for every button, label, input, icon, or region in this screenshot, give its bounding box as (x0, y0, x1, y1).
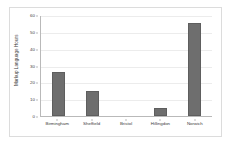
bar-chart-figure: Markup Language Hours 0102030405060 Birm… (0, 0, 231, 145)
bar-slot (178, 16, 212, 116)
x-axis-tick-label: Sheffield (74, 122, 108, 126)
y-axis-tick-mark (36, 83, 38, 84)
y-axis-tick-mark (36, 66, 38, 67)
x-axis-tick-label: Bristol (109, 122, 143, 126)
x-axis-tick-mark (126, 119, 127, 121)
bar-slot (75, 16, 109, 116)
x-axis-tick-mark (57, 119, 58, 121)
bars-layer (41, 16, 212, 116)
bar-slot (144, 16, 178, 116)
x-axis-tick-cell: Norwich (178, 119, 212, 126)
y-axis-tick-mark (36, 49, 38, 50)
bar[interactable] (86, 91, 99, 116)
x-axis-tick-cell: Hillingdon (143, 119, 177, 126)
y-axis-tick-mark (36, 32, 38, 33)
x-axis-tick-mark (194, 119, 195, 121)
x-axis-tick-labels: BirminghamSheffieldBristolHillingdonNorw… (40, 119, 212, 126)
y-axis-tick-label: 40 (30, 47, 35, 51)
x-axis-tick-cell: Birmingham (40, 119, 74, 126)
plot-area (40, 16, 212, 117)
x-axis-tick-label: Norwich (178, 122, 212, 126)
y-axis-tick-label: 10 (30, 98, 35, 102)
y-axis-tick-mark (36, 117, 38, 118)
y-axis-tick-labels: 0102030405060 (0, 16, 38, 117)
x-axis-tick-cell: Sheffield (74, 119, 108, 126)
y-axis-tick-label: 30 (30, 64, 35, 68)
y-axis-tick-label: 0 (33, 115, 35, 119)
bar[interactable] (188, 23, 201, 116)
x-axis-tick-mark (91, 119, 92, 121)
y-axis-tick-label: 60 (30, 14, 35, 18)
bar-slot (109, 16, 143, 116)
y-axis-tick-label: 50 (30, 31, 35, 35)
bar-slot (41, 16, 75, 116)
x-axis-tick-cell: Bristol (109, 119, 143, 126)
x-axis-tick-mark (160, 119, 161, 121)
bar[interactable] (154, 108, 167, 116)
x-axis-tick-label: Hillingdon (143, 122, 177, 126)
bar[interactable] (52, 72, 65, 116)
x-axis-tick-label: Birmingham (40, 122, 74, 126)
y-axis-tick-mark (36, 100, 38, 101)
y-axis-tick-mark (36, 16, 38, 17)
y-axis-tick-label: 20 (30, 81, 35, 85)
